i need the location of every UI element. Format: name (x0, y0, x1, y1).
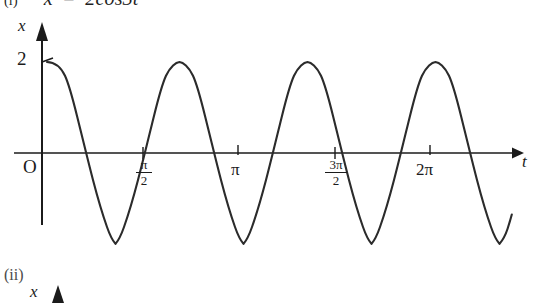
part-ii-vertical-axis-label: x (30, 282, 38, 302)
x-axis (36, 22, 48, 225)
part-ii-label: (ii) (4, 266, 24, 284)
cosine-graph: x t 2 O π 2 π 3π 2 2π (0, 0, 538, 268)
graph-canvas (0, 0, 538, 268)
y-tick-label-2: 2 (17, 48, 27, 70)
fraction-numerator: 3π (325, 158, 347, 171)
vertical-axis-label: x (18, 16, 26, 36)
x-tick-label-three-pi-over-2: 3π 2 (325, 158, 347, 187)
x-tick-label-pi-over-2: π 2 (136, 158, 152, 187)
x-tick-label-two-pi: 2π (416, 160, 433, 180)
fraction-numerator: π (136, 158, 152, 171)
t-axis (14, 148, 524, 159)
figure-panel: (i) x = 2cos3t (0, 0, 538, 305)
origin-label: O (23, 156, 37, 178)
x-axis-ticks (143, 145, 430, 159)
part-ii-axis-arrow-icon (50, 285, 66, 305)
fraction-denominator: 2 (136, 174, 152, 187)
fraction-denominator: 2 (325, 174, 347, 187)
horizontal-axis-label: t (522, 152, 527, 172)
x-tick-label-pi: π (231, 160, 240, 180)
